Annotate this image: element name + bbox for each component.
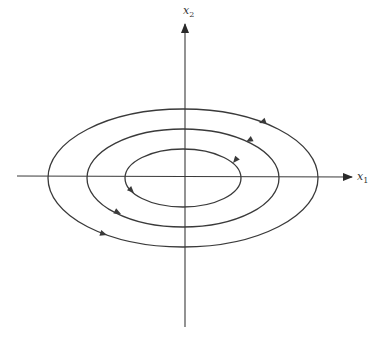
flow-arrow-icon <box>99 230 108 238</box>
phase-portrait-diagram: x2 x1 <box>0 0 377 340</box>
x2-axis-label: x2 <box>183 4 194 19</box>
diagram-canvas <box>0 0 377 340</box>
orbit-inner <box>125 149 241 207</box>
flow-arrow-icon <box>231 156 240 165</box>
x1-label-subscript: 1 <box>363 176 368 185</box>
x1-axis-label: x1 <box>357 170 368 185</box>
orbit-outer <box>48 109 318 247</box>
x2-label-subscript: 2 <box>189 10 194 19</box>
flow-arrow-icon <box>258 118 267 126</box>
